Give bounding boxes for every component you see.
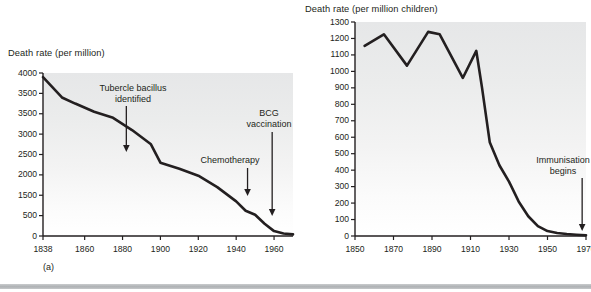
annotation-chemotherapy: Chemotherapy [185, 155, 275, 166]
figure-death-rate-charts: Death rate (per million) 400035003500300… [0, 0, 591, 292]
footer-divider-bar [0, 284, 591, 289]
y-tick-label: 100 [313, 215, 349, 224]
y-tick-label: 3500 [1, 89, 37, 98]
y-tick-label: 300 [313, 182, 349, 191]
annotation-tubercle-bacillus-line2: identified [78, 94, 188, 105]
x-tick-label: 1920 [178, 245, 218, 254]
y-tick-label: 0 [313, 232, 349, 241]
panel-a-letter: (a) [43, 262, 54, 272]
chart-panel-b: Death rate (per million children) 130012… [300, 0, 591, 292]
x-tick-label: 1970 [566, 245, 591, 254]
annotation-immunisation-begins-line2: begins [525, 166, 591, 177]
y-tick-label: 1100 [313, 50, 349, 59]
annotation-chemotherapy-line1: Chemotherapy [185, 155, 275, 166]
y-tick-label: 200 [313, 199, 349, 208]
chart-panel-a: Death rate (per million) 400035003500300… [0, 0, 300, 292]
chart-b-annotation-arrows [579, 178, 586, 231]
x-tick-label: 1838 [23, 245, 63, 254]
y-tick-label: 400 [313, 166, 349, 175]
x-tick-label: 1880 [103, 245, 143, 254]
chart-b-data-line [365, 32, 586, 235]
x-tick-label: 1940 [216, 245, 256, 254]
y-tick-label: 4000 [1, 69, 37, 78]
y-tick-label: 1000 [313, 67, 349, 76]
y-tick-label: 0 [1, 232, 37, 241]
y-tick-label: 2000 [1, 170, 37, 179]
y-tick-label: 3500 [1, 109, 37, 118]
y-tick-label: 1200 [313, 34, 349, 43]
y-tick-label: 700 [313, 116, 349, 125]
y-tick-label: 500 [313, 149, 349, 158]
annotation-arrow-head [579, 224, 586, 231]
annotation-arrow-head [123, 145, 130, 152]
annotation-bcg-vaccination-line2: vaccination [236, 119, 302, 130]
y-tick-label: 900 [313, 83, 349, 92]
y-tick-label: 500 [1, 211, 37, 220]
annotation-immunisation-begins: Immunisation begins [525, 155, 591, 177]
x-tick-label: 1930 [489, 245, 529, 254]
y-tick-label: 2500 [1, 150, 37, 159]
y-tick-label: 600 [313, 133, 349, 142]
y-tick-label: 3000 [1, 130, 37, 139]
annotation-tubercle-bacillus: Tubercle bacillus identified [78, 83, 188, 105]
annotation-arrow-head [244, 189, 251, 196]
y-tick-label: 1300 [313, 18, 349, 27]
x-tick-label: 1900 [140, 245, 180, 254]
annotation-bcg-vaccination: BCG vaccination [236, 108, 302, 130]
x-tick-label: 1850 [335, 245, 375, 254]
x-tick-label: 1890 [412, 245, 452, 254]
y-tick-label: 1500 [1, 191, 37, 200]
annotation-bcg-vaccination-line1: BCG [236, 108, 302, 119]
x-tick-label: 1960 [254, 245, 294, 254]
y-tick-label: 800 [313, 100, 349, 109]
annotation-arrow-head [269, 209, 276, 216]
annotation-tubercle-bacillus-line1: Tubercle bacillus [78, 83, 188, 94]
x-tick-label: 1910 [451, 245, 491, 254]
x-tick-label: 1870 [374, 245, 414, 254]
annotation-immunisation-begins-line1: Immunisation [525, 155, 591, 166]
x-tick-label: 1950 [528, 245, 568, 254]
x-tick-label: 1860 [65, 245, 105, 254]
